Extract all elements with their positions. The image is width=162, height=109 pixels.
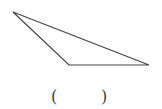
- answer-open-paren: (: [51, 88, 57, 106]
- answer-blank[interactable]: [62, 88, 100, 106]
- answer-close-paren: ): [101, 88, 107, 106]
- triangle: [13, 12, 149, 65]
